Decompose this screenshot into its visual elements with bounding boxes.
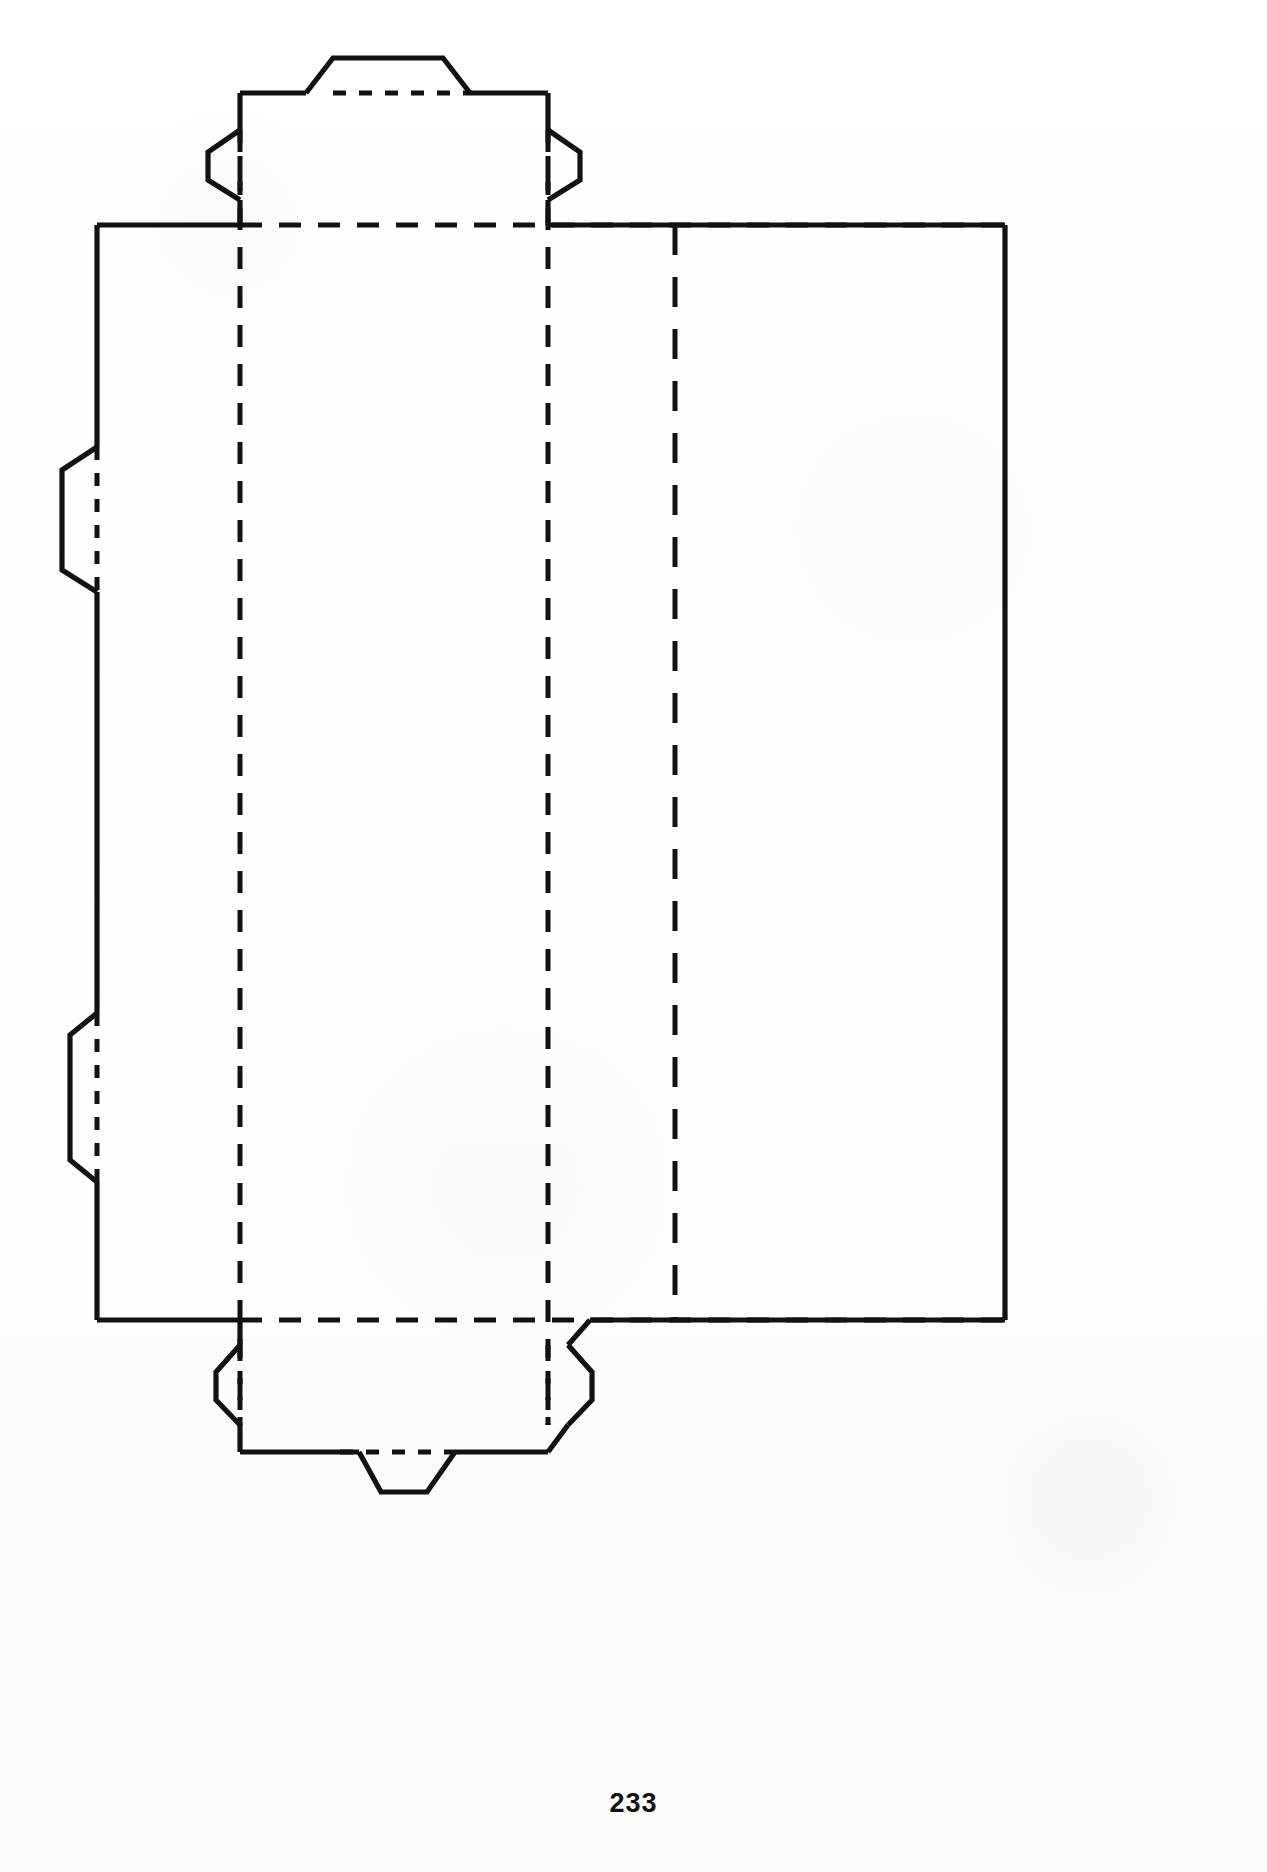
bottom-left-wing-flap bbox=[216, 1345, 240, 1425]
top-right-wing-flap bbox=[548, 130, 580, 200]
bottom-right-wing-flap bbox=[568, 1345, 592, 1425]
bottom-tuck-group bbox=[216, 1320, 592, 1492]
top-tuck-group bbox=[208, 58, 580, 225]
document-page: 233 bbox=[0, 0, 1267, 1872]
left-panel-group bbox=[62, 225, 240, 1320]
main-panel-group bbox=[548, 225, 1005, 1320]
left-side-flap-lower bbox=[70, 1013, 97, 1182]
bottom-tuck-right-edge-lower bbox=[548, 1425, 568, 1452]
dieline-drawing bbox=[0, 0, 1267, 1872]
left-side-flap-upper bbox=[62, 447, 97, 592]
bottom-tuck-right-edge-upper bbox=[568, 1320, 590, 1345]
page-number: 233 bbox=[0, 1788, 1267, 1819]
fold-lines-group bbox=[97, 93, 1005, 1452]
bottom-end-tab bbox=[359, 1452, 455, 1492]
top-end-tab bbox=[306, 58, 470, 93]
top-left-wing-flap bbox=[208, 130, 240, 200]
